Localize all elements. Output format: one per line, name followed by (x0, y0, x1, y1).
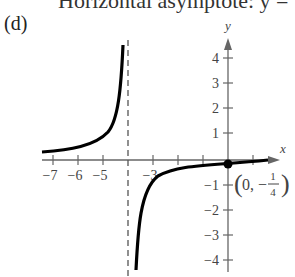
y-axis-label: y (223, 18, 231, 33)
svg-text:): ) (281, 169, 290, 198)
svg-text:1: 1 (212, 126, 219, 141)
point-label: ( 0, − 1 4 ) (234, 169, 290, 198)
svg-text:3: 3 (212, 76, 219, 91)
svg-text:4: 4 (270, 186, 276, 198)
svg-text:−5: −5 (93, 168, 108, 183)
svg-text:4: 4 (212, 51, 219, 66)
graph: x −7 −6 −5 −3 y (0, 0, 295, 277)
svg-text:−1: −1 (204, 178, 219, 193)
svg-text:1: 1 (270, 170, 276, 182)
svg-text:−7: −7 (43, 168, 58, 183)
curve-left-branch (42, 45, 123, 152)
x-axis-label: x (279, 141, 286, 156)
svg-text:−4: −4 (204, 253, 219, 268)
svg-text:−3: −3 (204, 228, 219, 243)
svg-text:2: 2 (212, 101, 219, 116)
y-intercept-point (224, 160, 233, 169)
y-axis: y 4 3 2 1 −1 −2 −3 −4 (204, 18, 233, 272)
svg-text:−2: −2 (204, 203, 219, 218)
svg-text:−6: −6 (68, 168, 83, 183)
svg-text:0, −: 0, − (242, 176, 267, 193)
